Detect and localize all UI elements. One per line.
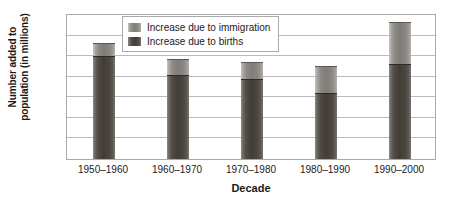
bar-chart-figure: Number added to population (in millions)…	[0, 0, 452, 215]
stacked-bar	[167, 59, 189, 159]
bar-segment-immigration	[315, 66, 337, 93]
x-axis-tick-label: 1960–1970	[137, 164, 217, 175]
stacked-bar	[241, 62, 263, 159]
x-axis-title: Decade	[66, 182, 436, 194]
legend-item: Increase due to births	[128, 34, 270, 48]
y-axis-title-line-1: Number added to	[7, 0, 19, 147]
bar-segment-immigration	[93, 43, 115, 56]
y-axis-title-line-2: population (in millions)	[19, 0, 31, 147]
immigration-swatch	[128, 23, 141, 32]
bar-segment-immigration	[167, 59, 189, 75]
stacked-bar	[93, 43, 115, 159]
x-axis-tick-label: 1950–1960	[63, 164, 143, 175]
bar-segment-immigration	[389, 22, 411, 64]
legend-item-label: Increase due to births	[147, 36, 243, 47]
chart-legend: Increase due to immigrationIncrease due …	[122, 16, 279, 52]
bar-segment-immigration	[241, 62, 263, 79]
x-axis-tick-label: 1970–1980	[211, 164, 291, 175]
bar-segment-births	[315, 93, 337, 159]
bar-segment-births	[93, 56, 115, 159]
gridline	[67, 55, 435, 56]
births-swatch	[128, 37, 141, 46]
bar-segment-births	[389, 64, 411, 159]
x-axis-tick-label: 1980–1990	[285, 164, 365, 175]
x-axis-tick-label: 1990–2000	[359, 164, 439, 175]
bar-segment-births	[167, 75, 189, 159]
y-axis-title: Number added to population (in millions)	[7, 0, 41, 147]
legend-item-label: Increase due to immigration	[147, 22, 270, 33]
stacked-bar	[389, 22, 411, 159]
bar-segment-births	[241, 79, 263, 159]
stacked-bar	[315, 66, 337, 159]
legend-item: Increase due to immigration	[128, 20, 270, 34]
